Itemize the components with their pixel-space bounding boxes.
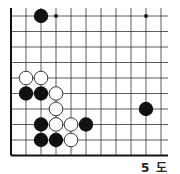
white-stone (49, 87, 63, 101)
grid-lines (11, 8, 168, 156)
white-stone (64, 118, 78, 132)
black-stone (34, 133, 48, 147)
white-stone (49, 102, 63, 116)
black-stone (19, 86, 33, 100)
black-stone (34, 117, 48, 131)
black-stone (49, 133, 63, 147)
white-stone (64, 133, 78, 147)
white-stone (49, 118, 63, 132)
black-stone (34, 9, 48, 23)
black-stone (34, 86, 48, 100)
black-stone (79, 117, 93, 131)
star-point (54, 14, 58, 18)
white-stone (34, 71, 48, 85)
star-point (144, 14, 148, 18)
diagram-caption: 5 도 (141, 158, 168, 174)
white-stone (19, 71, 33, 85)
go-board (0, 0, 180, 160)
black-stone (139, 102, 153, 116)
